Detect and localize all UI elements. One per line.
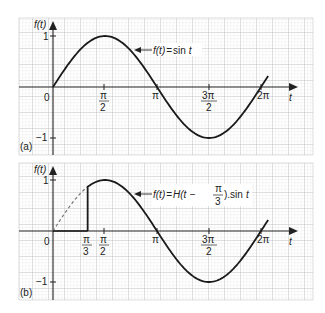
y-tick-1-b: 1 [43, 175, 49, 186]
svg-text:2: 2 [206, 246, 212, 257]
tick-pi-b: π [152, 234, 159, 245]
svg-text:3π: 3π [202, 234, 215, 245]
svg-text:3: 3 [215, 196, 221, 207]
tick-pi-a: π [152, 90, 159, 101]
svg-text:2: 2 [100, 102, 106, 113]
svg-text:2: 2 [206, 102, 212, 113]
svg-text:).sint: ).sint [224, 189, 250, 200]
y-axis-label-b: f(t) [34, 164, 46, 175]
y-axis-label-a: f(t) [34, 19, 46, 30]
svg-text:π: π [83, 234, 90, 245]
svg-text:π: π [100, 90, 107, 101]
tick-2pi-a: 2π [257, 90, 270, 101]
svg-text:π: π [215, 183, 222, 194]
svg-text:2: 2 [100, 246, 106, 257]
svg-text:3π: 3π [202, 90, 215, 101]
panel-tag-a: (a) [20, 141, 32, 152]
origin-label-a: 0 [44, 92, 50, 103]
chart-canvas: f(t) 1 −1 0 t π 2 π 3π 2 2π f(t)=sint (a… [0, 0, 325, 313]
y-tick-minus1-a: −1 [36, 132, 48, 143]
panel-a: f(t) 1 −1 0 t π 2 π 3π 2 2π f(t)=sint (a… [19, 18, 313, 155]
panel-b: f(t) 1 −1 0 t π 3 π 2 π 3π 2 2π f(t)=H(t… [19, 163, 313, 300]
origin-label-b: 0 [44, 236, 50, 247]
tick-2pi-b: 2π [257, 234, 270, 245]
panel-tag-b: (b) [20, 287, 32, 298]
svg-text:π: π [100, 234, 107, 245]
y-tick-minus1-b: −1 [36, 276, 48, 287]
svg-text:f(t)=H(t −: f(t)=H(t − [153, 189, 195, 200]
y-tick-1-a: 1 [43, 31, 49, 42]
svg-text:3: 3 [83, 246, 89, 257]
